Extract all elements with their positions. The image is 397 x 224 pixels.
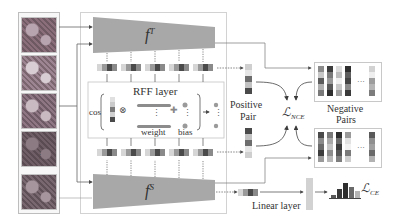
vector-cell xyxy=(369,90,375,96)
rff-weight-label: weight xyxy=(141,128,166,137)
output-cell xyxy=(253,189,258,196)
vector-cell xyxy=(345,156,351,162)
rff-multiply-icon: ⊗ xyxy=(119,106,127,115)
feature-cell xyxy=(112,64,117,71)
vector-cell xyxy=(336,90,342,96)
diagram: ⋮ xyxy=(0,0,397,224)
feature-cell xyxy=(160,149,165,156)
feature-cell xyxy=(208,64,213,71)
feature-cell xyxy=(208,149,213,156)
histogram-baseline xyxy=(329,198,361,199)
vector-cell xyxy=(327,156,333,162)
feature-cell xyxy=(136,149,141,156)
rff-cos-label: cos xyxy=(89,108,101,117)
teacher-label: fT xyxy=(145,27,154,43)
rff-layer-title: RFF layer xyxy=(133,86,177,97)
feature-cell xyxy=(184,64,189,71)
positive-pair-label-line2: Pair xyxy=(240,112,256,122)
linear-layer-label: Linear layer xyxy=(252,201,301,211)
feature-cell xyxy=(160,64,165,71)
feature-cell xyxy=(112,149,117,156)
feature-cell xyxy=(184,149,189,156)
student-label: fS xyxy=(145,183,154,199)
feature-cell xyxy=(136,64,141,71)
histogram-bar xyxy=(343,183,348,198)
vector-cell xyxy=(336,156,342,162)
positive-pair-label-line1: Positive xyxy=(230,100,262,110)
negative-bottom-ellipsis: ··· xyxy=(357,144,365,152)
rff-weight-vdots: ⋮ xyxy=(152,109,161,118)
vector-cell xyxy=(345,90,351,96)
vector-cell xyxy=(245,88,252,94)
rff-output-vdots: ⋮ xyxy=(214,109,223,118)
vector-cell xyxy=(318,90,324,96)
linear-layer-bar xyxy=(306,178,313,210)
rff-plus-icon: ✚ xyxy=(170,106,178,115)
vector-cell xyxy=(318,156,324,162)
negative-top-ellipsis: ··· xyxy=(357,78,365,86)
rff-bias-vdots: ⋮ xyxy=(183,109,192,118)
vector-cell xyxy=(369,156,375,162)
nce-loss-label: ℒNCE xyxy=(282,106,305,121)
histogram-bar xyxy=(337,189,342,198)
histogram-bar xyxy=(349,187,354,198)
negative-pairs-label-line2: Pairs xyxy=(336,115,356,125)
rff-bias-label: bias xyxy=(178,128,193,137)
student-network xyxy=(93,174,215,209)
vector-cell xyxy=(327,90,333,96)
histogram-bar xyxy=(355,191,360,198)
ce-loss-label: ℒCE xyxy=(361,182,379,197)
negative-pairs-label-line1: Negative xyxy=(327,104,363,114)
vector-cell xyxy=(245,152,252,158)
